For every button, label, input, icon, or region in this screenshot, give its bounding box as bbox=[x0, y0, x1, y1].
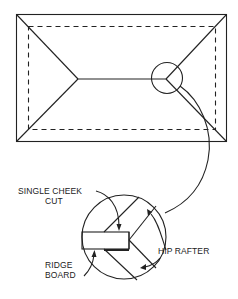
arrowhead-hip-rafter-lower bbox=[140, 264, 146, 270]
arrowhead-ridge-board bbox=[92, 250, 97, 257]
leader-curve bbox=[165, 86, 209, 213]
hip-rafter-leader-upper bbox=[151, 214, 166, 250]
hip-line-bottom-left bbox=[17, 79, 79, 142]
ridge-board-label: RIDGE BOARD bbox=[45, 260, 76, 280]
wall-line-dashed bbox=[29, 27, 216, 130]
ridge-board bbox=[82, 232, 129, 249]
hip-rafter-upper-edge-2 bbox=[129, 206, 156, 240]
arrowhead-single-cheek-cut bbox=[117, 224, 122, 231]
hip-rafter-label: HIP RAFTER bbox=[158, 246, 209, 256]
ridge-board-label-line1: RIDGE bbox=[45, 260, 76, 270]
hip-rafter-upper-edge-1 bbox=[104, 197, 139, 232]
hip-rafter-lower-edge-2 bbox=[129, 240, 156, 268]
hip-line-bottom-right bbox=[166, 79, 227, 142]
roof-outline bbox=[17, 15, 227, 142]
hip-line-top-left bbox=[17, 15, 79, 80]
hip-rafter-label-text: HIP RAFTER bbox=[158, 246, 209, 256]
hip-rafter-lower-edge-1 bbox=[104, 249, 137, 280]
single-cheek-cut-label: SINGLE CHEEK CUT bbox=[18, 186, 82, 206]
ridge-board-label-line2: BOARD bbox=[45, 270, 76, 280]
detail-circle bbox=[82, 195, 166, 279]
hip-line-top-right bbox=[166, 15, 227, 80]
single-cheek-cut-label-line2: CUT bbox=[18, 196, 82, 206]
single-cheek-cut-label-line1: SINGLE CHEEK bbox=[18, 186, 82, 196]
